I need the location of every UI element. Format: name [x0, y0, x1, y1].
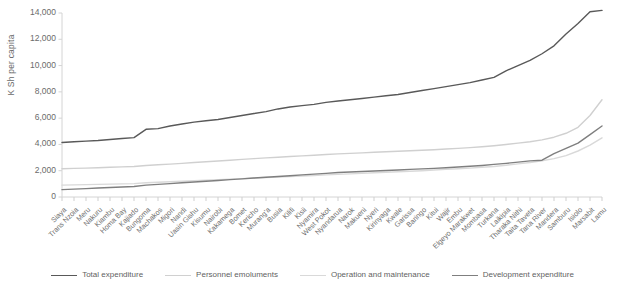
legend-swatch [165, 275, 191, 276]
y-tick-label: 12,000 [10, 34, 56, 43]
y-tick-label: 0 [10, 192, 56, 201]
legend-swatch [300, 275, 326, 276]
legend-swatch [452, 275, 478, 276]
series-lines [62, 13, 602, 197]
legend-label: Total expenditure [82, 271, 143, 279]
chart-container: K Sh per capita 02,0004,0006,0008,00010,… [0, 0, 625, 284]
legend-item[interactable]: Operation and maintenance [300, 271, 430, 279]
series-line [62, 126, 602, 190]
legend-item[interactable]: Personnel emoluments [165, 271, 278, 279]
plot-area [62, 13, 602, 197]
y-axis-tick-labels: 02,0004,0006,0008,00010,00012,00014,000 [8, 0, 56, 284]
y-tick-label: 8,000 [10, 87, 56, 96]
y-tick-label: 2,000 [10, 166, 56, 175]
legend-label: Personnel emoluments [196, 271, 278, 279]
y-tick-label: 10,000 [10, 61, 56, 70]
legend-item[interactable]: Total expenditure [51, 271, 143, 279]
legend-swatch [51, 275, 77, 276]
y-tick-label: 14,000 [10, 8, 56, 17]
y-tick-label: 4,000 [10, 139, 56, 148]
series-line [62, 10, 602, 142]
legend-label: Operation and maintenance [331, 271, 430, 279]
legend-label: Development expenditure [483, 271, 574, 279]
y-tick-label: 6,000 [10, 113, 56, 122]
chart-legend: Total expenditurePersonnel emolumentsOpe… [0, 268, 625, 282]
legend-item[interactable]: Development expenditure [452, 271, 574, 279]
series-line [62, 100, 602, 169]
